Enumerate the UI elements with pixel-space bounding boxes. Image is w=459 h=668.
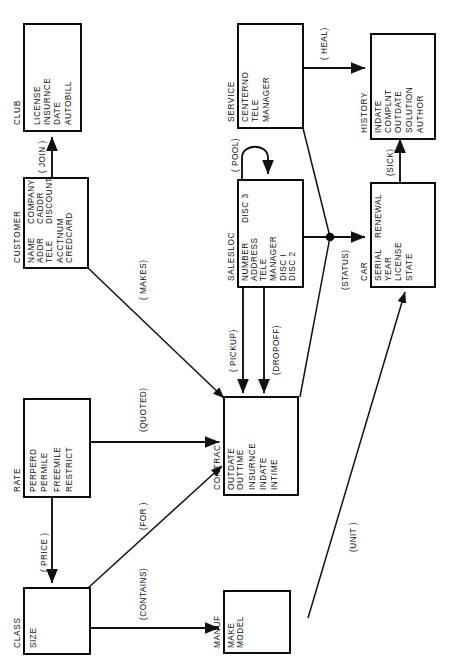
entity-car-attr-1: YEAR (384, 257, 393, 282)
entity-salesloc-attr-5: DISC 2 (288, 251, 297, 281)
entity-class-attr-0: SIZE (29, 628, 38, 648)
entity-salesloc-title: SALESLOC (227, 232, 236, 281)
entity-customer-attr-0: NAME (27, 237, 36, 263)
relationship-label-unit: (UNIT ) (349, 522, 358, 552)
relationship-label-makes: ( MAKES) (139, 260, 148, 300)
entity-manuf-title: MANUF (213, 615, 222, 648)
entity-salesloc-attr2-0: DISC 3 (241, 193, 250, 223)
entity-car-attr2-0: RENEWAL (374, 194, 383, 238)
relationship-label-pool: ( POOL) (231, 138, 240, 172)
relationship-status (303, 233, 365, 242)
relationship-label-for: (FOR ) (139, 502, 148, 530)
entity-contract-attr-4: INTIME (270, 459, 279, 490)
entity-car-title: CAR (360, 261, 369, 281)
entity-salesloc-attr-4: DISC I (279, 254, 288, 281)
entity-rate-attr-1: PERMILE (40, 452, 49, 492)
relationship-service-contract-link (300, 128, 330, 397)
entity-history-attr-2: OUTDATE (394, 91, 403, 133)
entity-club-attr-1: INSURNCE (43, 78, 52, 125)
entity-car-attr-0: SERIAL (374, 249, 383, 281)
entity-service-attr-2: MANAGER (262, 77, 271, 122)
entity-history-attr-0: INDATE (374, 100, 383, 133)
entity-customer-attr-3: ACCTNUM (56, 218, 65, 263)
entity-history-attr-1: COMPLNT (384, 89, 393, 133)
entity-history-attr-4: AUTHOR (416, 95, 425, 133)
relationship-label-join: ( JOIN ) (38, 140, 47, 173)
entity-car-attr-2: LICENSE (394, 242, 403, 281)
relationship-label-dropoff: (DROPOFF) (272, 325, 281, 375)
entity-salesloc-attr-2: TELE (259, 258, 268, 281)
entity-service-attr-0: CENTERNO (241, 72, 250, 122)
entity-club-attr-0: LICENSE (33, 86, 42, 125)
er-diagram: CLUB LICENSE INSURNCE DATE AUTOBILL CUST… (0, 0, 459, 668)
entity-history-attr-3: SOLUTION (405, 87, 414, 133)
relationship-label-heal: ( HEAL) (320, 27, 329, 60)
relationship-pool (242, 147, 268, 180)
entity-contract-attr-2: INSURNCE (248, 443, 257, 490)
relationship-label-pickup: ( PICKUP) (229, 329, 238, 372)
relationship-label-sick: (SICK) (386, 148, 395, 176)
entity-contract-attr-1: OUTTIME (236, 449, 245, 490)
relationship-label-status: (STATUS) (341, 249, 350, 290)
entity-service-title: SERVICE (227, 81, 236, 122)
entity-club-attr-3: AUTOBILL (64, 81, 73, 125)
entity-rate-attr-3: RESTRICT (65, 447, 74, 492)
entity-club-attr-2: DATE (53, 102, 62, 125)
entity-salesloc-attr-0: NUMBER (241, 242, 250, 281)
entity-contract-title: CONTRACT (213, 439, 222, 490)
entity-customer-attr-4: CREDCARD (65, 212, 74, 263)
entity-salesloc-attr-3: MANAGER (269, 236, 278, 281)
entity-customer-attr-2: TELE (45, 240, 54, 263)
entity-customer-attr2-1: CADDR (36, 192, 45, 224)
entity-club-title: CLUB (13, 100, 22, 125)
entity-customer-attr-1: ADDR (36, 238, 45, 263)
entity-class-title: CLASS (13, 617, 22, 648)
entity-manuf-attr-1: MODEL (236, 616, 245, 648)
entity-history-title: HISTORY (360, 92, 369, 133)
entity-service-attr-1: TELE (251, 99, 260, 122)
entity-rate-attr-0: PERPERD (29, 449, 38, 492)
entity-salesloc-attr-1: ADDRESS (250, 238, 259, 281)
relationship-label-quoted: (QUOTED) (139, 388, 148, 432)
er-diagram-canvas: CLUB LICENSE INSURNCE DATE AUTOBILL CUST… (0, 0, 459, 668)
entity-customer-attr2-2: DISCOUNT (45, 177, 54, 224)
entity-rate-attr-2: FREEMILE (53, 447, 62, 492)
entity-contract-attr-3: INDATE (259, 457, 268, 490)
entity-rate-title: RATE (13, 468, 22, 492)
relationship-for (88, 466, 222, 588)
entity-customer-title: CUSTOMER (13, 210, 22, 263)
relationship-label-contains: (CONTAINS) (139, 568, 148, 620)
relationship-makes (88, 268, 224, 398)
entity-manuf-attr-0: MAKE (227, 623, 236, 648)
entity-customer-attr2-0: COMPANY (27, 179, 36, 224)
entity-car-attr-3: STATE (405, 253, 414, 281)
relationship-label-price: ( PRICE ) (40, 532, 49, 572)
entity-contract-attr-0: OUTDATE (227, 448, 236, 490)
relationship-unit (308, 292, 405, 618)
